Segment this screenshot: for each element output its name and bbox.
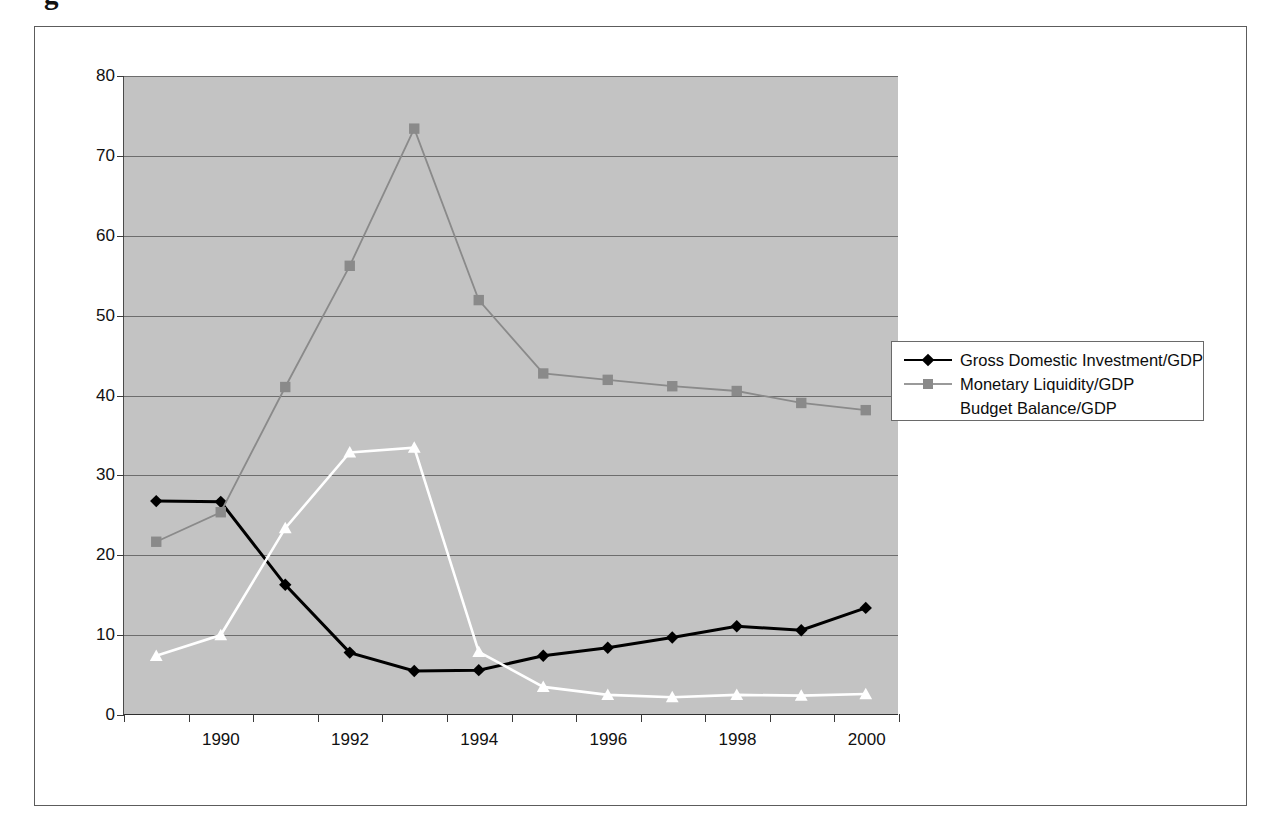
x-axis-tick xyxy=(705,714,706,722)
x-axis-tick xyxy=(512,714,513,722)
data-point xyxy=(472,645,485,657)
series-0 xyxy=(150,495,872,677)
legend-label-0: Gross Domestic Investment/GDP xyxy=(960,351,1203,370)
legend-swatch-diamond xyxy=(902,351,954,369)
series-line xyxy=(156,448,866,698)
y-axis-tick xyxy=(117,475,124,476)
data-point xyxy=(796,398,806,408)
x-axis-tick-label: 1992 xyxy=(331,730,369,750)
y-axis-tick xyxy=(117,715,124,716)
data-point xyxy=(666,631,678,643)
data-point xyxy=(216,507,226,517)
x-axis-tick xyxy=(576,714,577,722)
y-axis-tick-label: 70 xyxy=(96,146,115,166)
y-axis-tick xyxy=(117,396,124,397)
data-point xyxy=(732,386,742,396)
x-axis-tick xyxy=(834,714,835,722)
data-point xyxy=(214,629,227,641)
x-axis-tick xyxy=(641,714,642,722)
x-axis-tick-label: 1994 xyxy=(460,730,498,750)
y-axis-tick xyxy=(117,316,124,317)
y-axis-tick-label: 60 xyxy=(96,226,115,246)
y-axis-tick-label: 50 xyxy=(96,306,115,326)
legend-swatch-square xyxy=(902,375,954,393)
y-axis-tick xyxy=(117,76,124,77)
data-point xyxy=(280,382,290,392)
y-axis-tick-label: 10 xyxy=(96,625,115,645)
series-1 xyxy=(151,123,871,546)
y-axis-tick xyxy=(117,555,124,556)
legend: Gross Domestic Investment/GDP Monetary L… xyxy=(891,341,1204,421)
data-point xyxy=(731,620,743,632)
y-axis-tick-label: 20 xyxy=(96,545,115,565)
data-point xyxy=(795,624,807,636)
x-axis-tick-label: 1990 xyxy=(202,730,240,750)
x-axis-tick xyxy=(382,714,383,722)
y-axis-tick xyxy=(117,635,124,636)
x-axis-tick xyxy=(770,714,771,722)
plot-area: 01020304050607080 1990199219941996199820… xyxy=(123,76,898,715)
x-axis-tick xyxy=(447,714,448,722)
data-point xyxy=(602,642,614,654)
data-point xyxy=(408,665,420,677)
y-axis-tick xyxy=(117,156,124,157)
y-axis-tick-label: 30 xyxy=(96,465,115,485)
clipped-figure-caption: g xyxy=(44,0,59,11)
x-axis-tick-label: 2000 xyxy=(848,730,886,750)
y-axis-tick-label: 0 xyxy=(106,705,115,725)
x-axis-tick-label: 1998 xyxy=(719,730,757,750)
data-point xyxy=(860,602,872,614)
data-point xyxy=(345,261,355,271)
legend-item-gross-domestic-investment[interactable]: Gross Domestic Investment/GDP xyxy=(892,348,1203,372)
data-point xyxy=(150,495,162,507)
y-axis-tick-label: 80 xyxy=(96,66,115,86)
legend-label-1: Monetary Liquidity/GDP xyxy=(960,375,1134,394)
y-axis-tick-label: 40 xyxy=(96,386,115,406)
legend-label-2: Budget Balance/GDP xyxy=(960,399,1117,418)
chart-area: 01020304050607080 1990199219941996199820… xyxy=(35,27,1246,805)
figure-frame: 01020304050607080 1990199219941996199820… xyxy=(34,26,1247,806)
series-line xyxy=(156,501,866,671)
data-point xyxy=(667,381,677,391)
legend-item-budget-balance[interactable]: Budget Balance/GDP xyxy=(892,396,1203,420)
legend-item-monetary-liquidity[interactable]: Monetary Liquidity/GDP xyxy=(892,372,1203,396)
data-point xyxy=(603,375,613,385)
data-point xyxy=(538,368,548,378)
data-point xyxy=(861,405,871,415)
x-axis-tick xyxy=(189,714,190,722)
legend-swatch-triangle xyxy=(902,399,954,417)
x-axis-tick xyxy=(253,714,254,722)
x-axis-tick xyxy=(318,714,319,722)
x-axis-tick-label: 1996 xyxy=(589,730,627,750)
data-point xyxy=(474,295,484,305)
series-line xyxy=(156,129,866,542)
data-point xyxy=(537,650,549,662)
x-axis-tick xyxy=(899,714,900,722)
data-point xyxy=(473,664,485,676)
data-point xyxy=(151,537,161,547)
y-axis-tick xyxy=(117,236,124,237)
series-layer xyxy=(124,76,898,714)
data-point xyxy=(409,123,419,133)
x-axis-tick xyxy=(124,714,125,722)
